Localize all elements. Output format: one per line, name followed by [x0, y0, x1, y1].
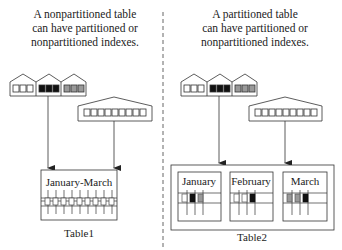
right-caption-line-2: can have partitioned or [202, 22, 308, 35]
table1-partition-label: January-March [46, 176, 113, 188]
partition-february: February [230, 172, 273, 221]
partitioning-diagram: A nonpartitioned table can have partitio… [0, 0, 342, 250]
partition-march-label: March [291, 175, 320, 187]
table1: January-March Table1 [41, 170, 117, 239]
partition-january-label: January [182, 175, 217, 187]
left-nonpartitioned-index [78, 97, 152, 121]
left-caption: A nonpartitioned table can have partitio… [31, 8, 139, 49]
table2: January February March [171, 165, 334, 243]
table1-label: Table1 [64, 227, 94, 239]
table2-label: Table2 [237, 231, 267, 243]
left-partitioned-index [10, 74, 86, 96]
left-caption-line-1: A nonpartitioned table [34, 8, 137, 21]
right-nonpartitioned-index [249, 97, 322, 121]
right-partitioned-index [181, 74, 257, 96]
partition-march: March [283, 172, 327, 221]
partition-january: January [178, 172, 221, 221]
partition-february-label: February [231, 175, 271, 187]
right-caption: A partitioned table can have partitioned… [201, 8, 309, 49]
left-caption-line-3: nonpartitioned indexes. [31, 36, 139, 49]
left-caption-line-2: can have partitioned or [32, 22, 138, 35]
right-caption-line-1: A partitioned table [212, 8, 298, 21]
right-caption-line-3: nonpartitioned indexes. [201, 36, 309, 49]
